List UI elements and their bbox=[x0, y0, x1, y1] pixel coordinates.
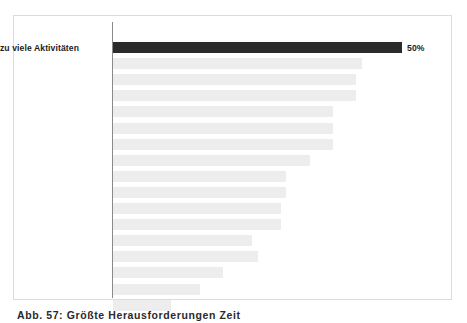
bar-value-label: 50% bbox=[407, 43, 425, 53]
bar-chart-plot-area: zu viele Aktivitäten50% bbox=[14, 16, 451, 299]
bar-track bbox=[113, 90, 402, 101]
bar-track bbox=[113, 106, 402, 117]
bar-track bbox=[113, 187, 402, 198]
bar-row bbox=[14, 171, 451, 182]
bar bbox=[113, 187, 286, 198]
bar bbox=[113, 267, 223, 278]
bar bbox=[113, 235, 252, 246]
bar-track bbox=[113, 267, 402, 278]
bar-row bbox=[14, 58, 451, 69]
bar-row bbox=[14, 155, 451, 166]
bar-row bbox=[14, 106, 451, 117]
figure-caption: Abb. 57: Größte Herausforderungen Zeit bbox=[17, 309, 457, 321]
bar-row bbox=[14, 235, 451, 246]
figure-frame: zu viele Aktivitäten50% bbox=[13, 15, 452, 300]
bar-track bbox=[113, 219, 402, 230]
bar bbox=[113, 155, 310, 166]
bar-row bbox=[14, 74, 451, 85]
bar-track bbox=[113, 42, 402, 53]
bar bbox=[113, 106, 333, 117]
bar-row bbox=[14, 267, 451, 278]
bar-row bbox=[14, 219, 451, 230]
bar bbox=[113, 90, 356, 101]
bar-row bbox=[14, 123, 451, 134]
bar-row bbox=[14, 251, 451, 262]
bar-row bbox=[14, 203, 451, 214]
bar bbox=[113, 139, 333, 150]
bar bbox=[113, 251, 258, 262]
bar-track bbox=[113, 251, 402, 262]
bar bbox=[113, 123, 333, 134]
bar-track bbox=[113, 123, 402, 134]
bar-row bbox=[14, 90, 451, 101]
bar bbox=[113, 203, 281, 214]
bar-category-label: zu viele Aktivitäten bbox=[0, 43, 79, 53]
bar-track bbox=[113, 235, 402, 246]
bar-track bbox=[113, 171, 402, 182]
bar bbox=[113, 42, 402, 53]
bar-track bbox=[113, 284, 402, 295]
bar-track bbox=[113, 139, 402, 150]
bar bbox=[113, 171, 286, 182]
bar-row: zu viele Aktivitäten50% bbox=[14, 42, 451, 53]
bar-track bbox=[113, 74, 402, 85]
bar bbox=[113, 74, 356, 85]
bar-row bbox=[14, 139, 451, 150]
bar bbox=[113, 58, 362, 69]
bar bbox=[113, 284, 200, 295]
bar-track bbox=[113, 203, 402, 214]
bar bbox=[113, 219, 281, 230]
bar-row bbox=[14, 187, 451, 198]
bar-track bbox=[113, 155, 402, 166]
bar-track bbox=[113, 58, 402, 69]
bar-row bbox=[14, 284, 451, 295]
